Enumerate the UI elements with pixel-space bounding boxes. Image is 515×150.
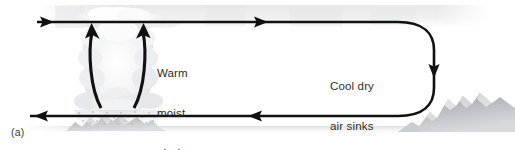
annotation-line: air rises: [157, 147, 199, 150]
flow-arrow-layer: [0, 0, 515, 150]
annotation-line: moist: [157, 107, 199, 120]
convective-updraft-arrows: [90, 32, 145, 108]
updraft-arrowheads: [85, 23, 151, 39]
annotation-cool-dry-air-sinks: Cool dry air sinks: [330, 54, 374, 150]
panel-label: (a): [11, 126, 24, 139]
annotation-line: Warm: [157, 67, 199, 80]
atmospheric-circulation-figure: Warm moist air rises Cool dry air sinks …: [0, 0, 515, 150]
annotation-line: Cool dry: [330, 80, 374, 93]
annotation-line: air sinks: [330, 120, 374, 133]
annotation-warm-moist-air-rises: Warm moist air rises: [157, 41, 199, 150]
